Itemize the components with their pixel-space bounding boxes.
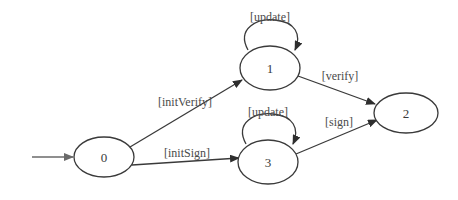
edge-label-update-1: [update] [250,10,290,24]
edge-1-to-2[interactable]: [verify] [298,69,375,104]
state-node-1[interactable]: 1 [240,46,300,90]
node-label: 1 [267,61,274,76]
edge-label-initverify: [initVerify] [158,95,212,109]
edge-label-initsign: [initSign] [164,146,210,160]
edge-label-verify: [verify] [322,69,359,83]
edge-arrow [130,80,242,147]
edge-label-sign: [sign] [325,115,353,129]
node-label: 3 [265,155,272,170]
edge-3-to-2[interactable]: [sign] [296,115,377,154]
edge-1-self-loop[interactable]: [update] [245,10,298,50]
state-node-0[interactable]: 0 [74,137,134,177]
edge-0-to-3[interactable]: [initSign] [132,146,239,165]
state-diagram: [initVerify] [initSign] [update] [update… [0,0,458,200]
edge-3-self-loop[interactable]: [update] [243,105,296,144]
edge-0-to-1[interactable]: [initVerify] [130,80,242,147]
edge-label-update-3: [update] [248,105,288,119]
node-label: 0 [101,150,108,165]
node-label: 2 [403,106,410,121]
state-node-2[interactable]: 2 [374,93,438,133]
state-node-3[interactable]: 3 [238,140,298,184]
